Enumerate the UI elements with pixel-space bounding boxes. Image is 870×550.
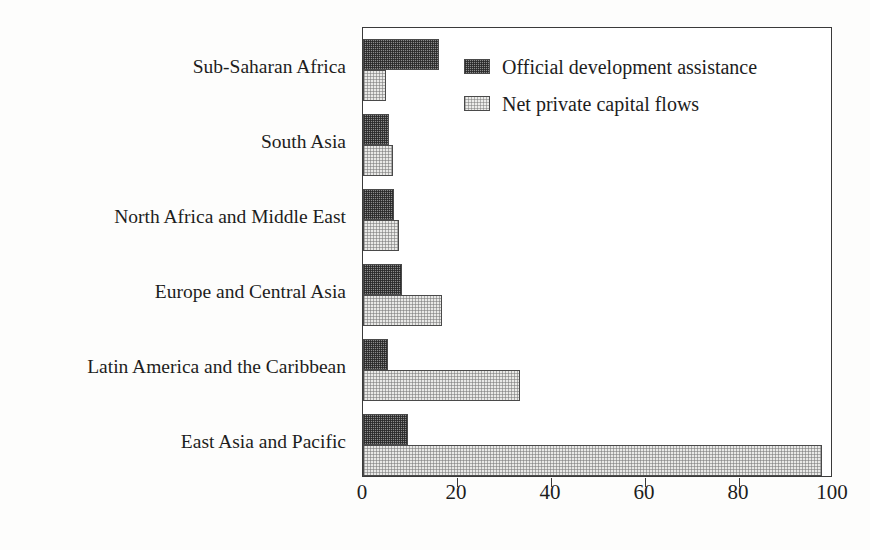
bar-light-2 [363, 220, 399, 251]
bar-dark-1 [363, 114, 389, 145]
x-tick-label-40: 40 [540, 481, 561, 503]
bar-light-5 [363, 445, 822, 476]
legend-item: Official development assistance [464, 48, 824, 85]
legend-item: Net private capital flows [464, 85, 824, 122]
y-axis-label-1: South Asia [0, 132, 354, 152]
bar-dark-3 [363, 264, 402, 295]
y-axis-label-0: Sub-Saharan Africa [0, 57, 354, 77]
chart-legend: Official development assistance Net priv… [464, 48, 824, 122]
x-tick-label-100: 100 [816, 481, 848, 503]
bar-light-4 [363, 370, 520, 401]
x-tick-label-60: 60 [634, 481, 655, 503]
bar-light-0 [363, 70, 386, 101]
bar-light-3 [363, 295, 442, 326]
legend-swatch-net-private-capital-flows [464, 96, 490, 111]
bar-light-1 [363, 145, 393, 176]
y-axis-label-4: Latin America and the Caribbean [0, 357, 354, 377]
bar-dark-4 [363, 339, 388, 370]
x-tick-label-20: 20 [446, 481, 467, 503]
legend-label-net-private-capital-flows: Net private capital flows [502, 93, 699, 115]
bar-dark-2 [363, 189, 394, 220]
y-axis-label-5: East Asia and Pacific [0, 432, 354, 452]
y-axis-category-labels: Sub-Saharan AfricaSouth AsiaNorth Africa… [0, 27, 354, 477]
bar-dark-0 [363, 39, 439, 70]
legend-label-official-development-assistance: Official development assistance [502, 56, 757, 78]
chart-canvas: Sub-Saharan AfricaSouth AsiaNorth Africa… [0, 0, 870, 550]
x-tick-label-0: 0 [357, 481, 368, 503]
legend-swatch-official-development-assistance [464, 59, 490, 74]
y-axis-label-2: North Africa and Middle East [0, 207, 354, 227]
x-tick-label-80: 80 [728, 481, 749, 503]
bar-dark-5 [363, 414, 408, 445]
plot-area: Official development assistance Net priv… [362, 27, 832, 477]
y-axis-label-3: Europe and Central Asia [0, 282, 354, 302]
